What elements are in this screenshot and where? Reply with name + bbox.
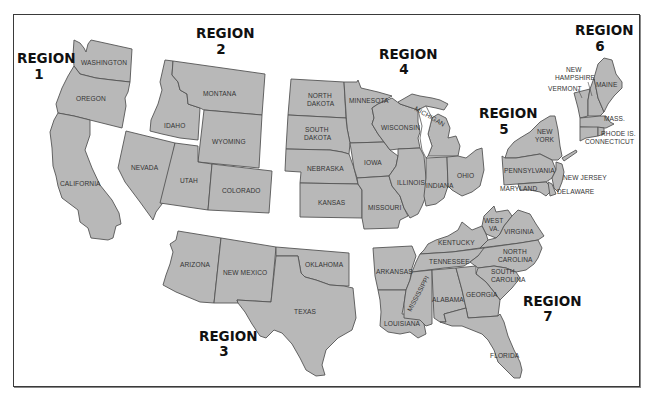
state-california[interactable] xyxy=(50,113,121,240)
label-kansas: KANSAS xyxy=(318,199,346,206)
label-florida: FLORIDA xyxy=(490,352,520,359)
region-3-number: 3 xyxy=(219,343,228,359)
region-2-number: 2 xyxy=(216,41,225,57)
label-colorado: COLORADO xyxy=(222,187,261,194)
region-3 xyxy=(163,231,356,376)
label-kentucky: KENTUCKY xyxy=(438,239,475,246)
label-virginia: VIRGINIA xyxy=(504,228,534,235)
label-wyoming: WYOMING xyxy=(212,138,246,145)
state-long-island[interactable] xyxy=(562,150,577,161)
us-regions-map: WASHINGTON OREGON CALIFORNIA MONTANA IDA… xyxy=(0,0,652,400)
label-west-va-2: VA. xyxy=(489,225,500,232)
label-ohio: OHIO xyxy=(457,172,474,179)
label-delaware: DELAWARE xyxy=(557,188,595,195)
label-minnesota: MINNESOTA xyxy=(349,97,389,104)
label-vermont: VERMONT xyxy=(548,85,582,92)
label-texas: TEXAS xyxy=(294,308,317,315)
region-1-number: 1 xyxy=(34,66,43,82)
label-south-dakota-2: DAKOTA xyxy=(304,134,332,141)
label-south-carolina-2: CAROLINA xyxy=(491,276,526,283)
region-1 xyxy=(50,40,132,240)
region-5-title: REGION xyxy=(479,105,538,121)
region-2-title: REGION xyxy=(196,25,255,41)
label-new-hampshire-1: NEW xyxy=(566,66,582,73)
label-montana: MONTANA xyxy=(203,90,237,97)
region-7-number: 7 xyxy=(543,308,552,324)
label-south-carolina-1: SOUTH xyxy=(491,268,515,275)
label-wisconsin: WISCONSIN xyxy=(381,124,420,131)
state-florida[interactable] xyxy=(440,308,522,378)
label-new-jersey: NEW JERSEY xyxy=(563,174,607,181)
region-6-number: 6 xyxy=(595,38,604,54)
label-illinois: ILLINOIS xyxy=(397,179,425,186)
region-2 xyxy=(118,60,272,220)
label-arizona: ARIZONA xyxy=(180,261,211,268)
label-mass: MASS. xyxy=(604,115,625,122)
region-4-title: REGION xyxy=(379,46,438,62)
region-6-title: REGION xyxy=(575,22,634,38)
label-missouri: MISSOURI xyxy=(368,204,401,211)
label-new-hampshire-2: HAMPSHIRE xyxy=(555,74,596,81)
label-west-va-1: WEST xyxy=(484,217,503,224)
label-louisiana: LOUISIANA xyxy=(384,320,421,327)
label-maine: MAINE xyxy=(596,81,618,88)
region-3-title: REGION xyxy=(199,328,258,344)
label-georgia: GEORGIA xyxy=(466,291,498,298)
label-new-mexico: NEW MEXICO xyxy=(223,269,267,276)
label-nevada: NEVADA xyxy=(131,164,159,171)
label-tennessee: TENNESSEE xyxy=(429,258,470,265)
label-oklahoma: OKLAHOMA xyxy=(305,261,344,268)
label-nebraska: NEBRASKA xyxy=(307,165,344,172)
label-idaho: IDAHO xyxy=(164,122,185,129)
label-utah: UTAH xyxy=(180,177,198,184)
label-pennsylvania: PENNSYLVANIA xyxy=(504,167,555,174)
label-north-dakota-1: NORTH xyxy=(308,92,332,99)
label-north-carolina-2: CAROLINA xyxy=(498,256,533,263)
region-1-title: REGION xyxy=(17,50,76,66)
label-indiana: INDIANA xyxy=(426,182,454,189)
region-5-number: 5 xyxy=(499,121,508,137)
label-south-dakota-1: SOUTH xyxy=(305,126,329,133)
label-north-carolina-1: NORTH xyxy=(503,248,527,255)
label-iowa: IOWA xyxy=(364,159,382,166)
label-new-york-1: NEW xyxy=(537,128,553,135)
label-north-dakota-2: DAKOTA xyxy=(307,100,335,107)
label-oregon: OREGON xyxy=(76,95,106,102)
region-7-title: REGION xyxy=(523,293,582,309)
label-arkansas: ARKANSAS xyxy=(376,268,413,275)
label-new-york-2: YORK xyxy=(535,136,555,143)
label-connecticut: CONNECTICUT xyxy=(585,138,634,145)
region-4-number: 4 xyxy=(399,61,408,77)
label-rhode-island: RHODE IS. xyxy=(601,130,636,137)
label-maryland: MARYLAND xyxy=(500,185,537,192)
label-alabama: ALABAMA xyxy=(432,296,464,303)
label-washington: WASHINGTON xyxy=(81,59,127,66)
label-california: CALIFORNIA xyxy=(60,180,101,187)
